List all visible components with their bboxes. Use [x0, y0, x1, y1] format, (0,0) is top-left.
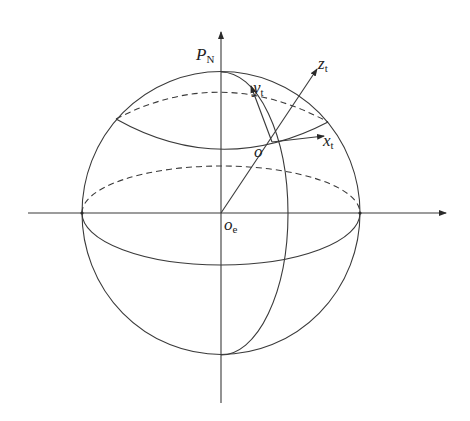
- z-axis-line: [221, 69, 317, 213]
- y-axis-label: yt: [251, 78, 264, 98]
- diagram-canvas: PN oe o xt yt zt: [0, 0, 470, 421]
- equator-right-point: [358, 211, 361, 214]
- pole-label: PN: [195, 45, 214, 65]
- earth-center-label: oe: [224, 215, 238, 235]
- z-axis-label: zt: [317, 54, 328, 74]
- x-axis-line: [272, 136, 324, 142]
- latitude-front: [116, 119, 328, 149]
- equator-left-point: [80, 211, 83, 214]
- x-axis-label: xt: [322, 131, 334, 151]
- latitude-back: [116, 92, 328, 122]
- origin-label: o: [254, 142, 263, 161]
